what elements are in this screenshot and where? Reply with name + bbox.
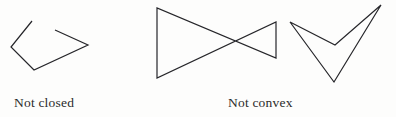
chevron-polygon-not-convex: [290, 5, 381, 82]
caption-not-convex: Not convex: [228, 95, 293, 111]
open-polyline-not-closed: [11, 21, 88, 70]
polygon-examples-figure: Not closed Not convex: [0, 0, 396, 117]
caption-not-closed: Not closed: [14, 95, 74, 111]
bowtie-polygon-not-convex: [157, 8, 276, 78]
